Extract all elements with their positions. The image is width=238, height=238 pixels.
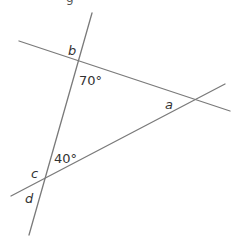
label-b: b [68,43,76,58]
lower-line [11,84,225,196]
steep-line [29,13,92,235]
label-angle-40: 40° [54,151,77,166]
upper-line [19,41,230,111]
label-d: d [25,191,34,206]
header-fragment: g [66,0,74,5]
label-c: c [31,166,38,181]
angle-diagram: g b 70° a 40° c d [0,0,238,238]
label-angle-70: 70° [79,73,102,88]
label-a: a [165,97,173,112]
